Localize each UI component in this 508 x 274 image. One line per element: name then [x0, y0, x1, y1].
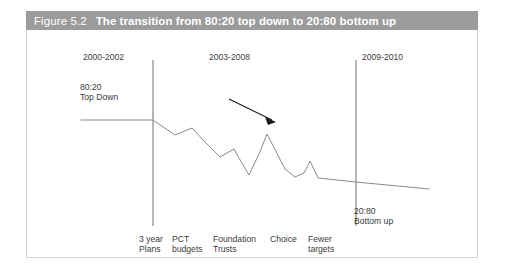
era-label-2: 2003-2008: [209, 52, 250, 62]
milestone-3-line1: Foundation: [213, 234, 256, 244]
milestone-label-5: Fewer targets: [308, 234, 334, 255]
start-mode: Top Down: [80, 92, 118, 102]
milestone-label-4: Choice: [270, 234, 297, 244]
milestone-5-line2: targets: [308, 244, 334, 254]
transition-line-chart: [27, 30, 479, 258]
figure-panel: 2000-2002 2003-2008 2009-2010 80:20 Top …: [26, 30, 478, 258]
milestone-label-2: PCT budgets: [172, 234, 203, 255]
transition-trace: [81, 120, 429, 189]
milestone-2-line2: budgets: [172, 244, 203, 254]
end-mode: Bottom up: [354, 216, 393, 226]
figure-container: Figure 5.2 The transition from 80:20 top…: [26, 11, 478, 258]
figure-number: Figure 5.2: [34, 15, 87, 27]
end-state-annotation: 20:80 Bottom up: [354, 206, 393, 227]
era-label-1: 2000-2002: [83, 52, 124, 62]
end-ratio: 20:80: [354, 206, 393, 216]
milestone-label-1: 3 year Plans: [139, 234, 163, 255]
start-ratio: 80:20: [80, 82, 118, 92]
milestone-3-line2: Trusts: [213, 244, 256, 254]
milestone-label-3: Foundation Trusts: [213, 234, 256, 255]
start-state-annotation: 80:20 Top Down: [80, 82, 118, 103]
milestone-1-line1: 3 year: [139, 234, 163, 244]
milestone-1-line2: Plans: [139, 244, 163, 254]
figure-title: The transition from 80:20 top down to 20…: [96, 15, 396, 27]
milestone-4-line1: Choice: [270, 234, 297, 244]
era-label-3: 2009-2010: [362, 52, 403, 62]
milestone-5-line1: Fewer: [308, 234, 334, 244]
figure-caption-bar: Figure 5.2 The transition from 80:20 top…: [26, 11, 478, 30]
milestone-2-line1: PCT: [172, 234, 203, 244]
trend-arrow-icon: [229, 99, 276, 125]
